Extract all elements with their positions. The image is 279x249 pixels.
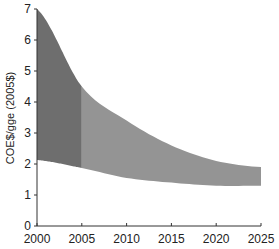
y-axis-label: COE$/gge (2005$) bbox=[4, 72, 16, 164]
y-tick-label: 5 bbox=[24, 64, 31, 78]
y-tick-label: 0 bbox=[24, 219, 31, 233]
band-regions bbox=[37, 9, 261, 186]
y-ticks: 01234567 bbox=[24, 2, 37, 233]
y-tick-label: 6 bbox=[24, 33, 31, 47]
y-tick-label: 1 bbox=[24, 188, 31, 202]
y-tick-label: 3 bbox=[24, 126, 31, 140]
y-tick-label: 7 bbox=[24, 2, 31, 16]
band-region-historical bbox=[37, 9, 82, 168]
x-tick-label: 2000 bbox=[24, 232, 51, 246]
cost-range-chart: 01234567 200020052010201520202025 COE$/g… bbox=[0, 0, 279, 249]
x-tick-label: 2025 bbox=[248, 232, 275, 246]
y-tick-label: 4 bbox=[24, 95, 31, 109]
x-tick-label: 2005 bbox=[68, 232, 95, 246]
y-tick-label: 2 bbox=[24, 157, 31, 171]
band-region-projected bbox=[82, 87, 261, 186]
x-tick-label: 2015 bbox=[158, 232, 185, 246]
x-tick-label: 2010 bbox=[113, 232, 140, 246]
x-tick-label: 2020 bbox=[203, 232, 230, 246]
